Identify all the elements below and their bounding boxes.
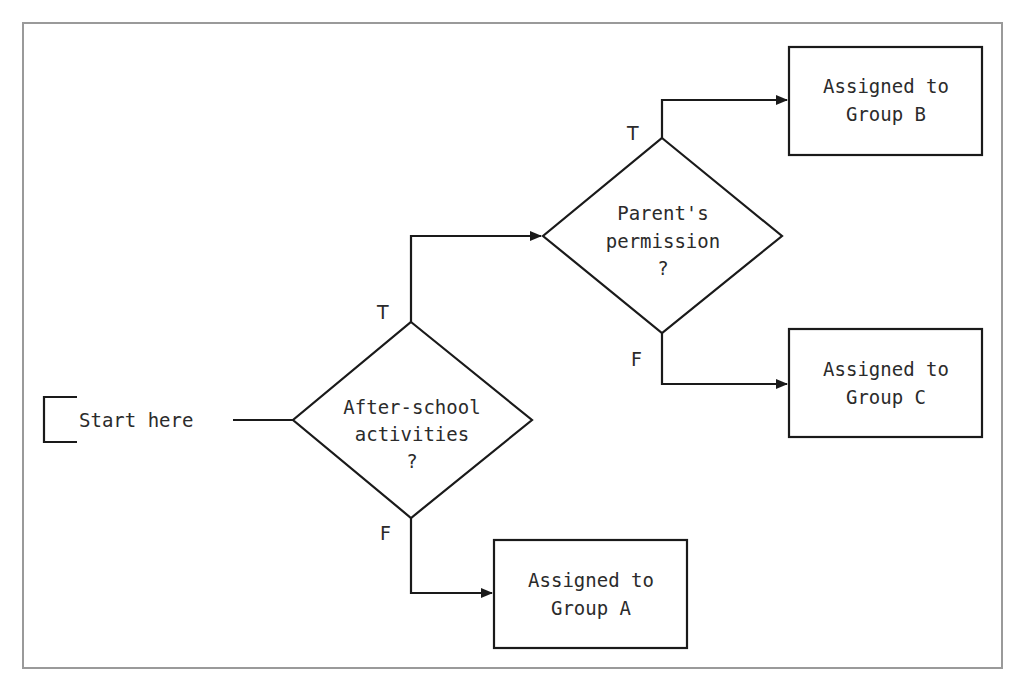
- outcome-box: [789, 329, 982, 437]
- decision-line: After-school: [343, 396, 480, 418]
- edge-label-false: F: [380, 522, 391, 544]
- decision-after-school: After-school activities ?: [293, 322, 532, 518]
- decision-line: permission: [606, 230, 720, 252]
- edge-decision2-false: [662, 333, 787, 384]
- decision-line: Parent's: [617, 202, 709, 224]
- edge-decision1-true: [411, 236, 541, 322]
- edge-label-false: F: [631, 348, 642, 370]
- outcome-group-b: Assigned to Group B: [789, 47, 982, 155]
- outcome-line: Group C: [846, 386, 926, 408]
- start-label: Start here: [79, 409, 193, 431]
- outcome-line: Assigned to: [823, 75, 949, 97]
- decision-line: ?: [406, 450, 417, 472]
- outcome-line: Group B: [846, 103, 926, 125]
- decision-line: activities: [355, 423, 469, 445]
- decision-parents-permission: Parent's permission ?: [543, 138, 782, 333]
- outcome-line: Group A: [551, 597, 632, 619]
- edge-decision1-false: [411, 518, 492, 593]
- flowchart-canvas: Start here After-school activities ? T F…: [0, 0, 1026, 698]
- start-node: Start here: [44, 397, 193, 442]
- outcome-line: Assigned to: [528, 569, 654, 591]
- decision-diamond: [293, 322, 532, 518]
- edge-label-true: T: [626, 122, 639, 144]
- start-bracket: [44, 397, 77, 442]
- outcome-line: Assigned to: [823, 358, 949, 380]
- outcome-group-c: Assigned to Group C: [789, 329, 982, 437]
- edge-decision2-true: [662, 100, 787, 138]
- edge-label-true: T: [376, 301, 389, 323]
- outcome-group-a: Assigned to Group A: [494, 540, 687, 648]
- outcome-box: [494, 540, 687, 648]
- outcome-box: [789, 47, 982, 155]
- decision-line: ?: [657, 257, 668, 279]
